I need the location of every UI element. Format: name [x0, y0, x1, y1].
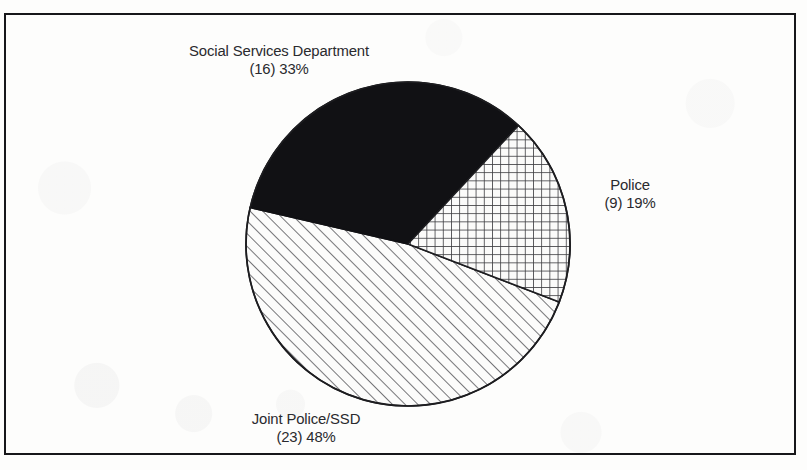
- pie-chart-figure: Social Services Department (16) 33% Poli…: [0, 0, 807, 470]
- pie-label-social-services-value: (16) 33%: [168, 60, 391, 78]
- pie-label-police: Police (9) 19%: [569, 176, 692, 212]
- pie-label-police-value: (9) 19%: [569, 194, 692, 212]
- pie-label-social-services: Social Services Department (16) 33%: [168, 42, 391, 78]
- pie-label-social-services-name: Social Services Department: [168, 42, 391, 60]
- pie-chart-canvas: [0, 0, 807, 470]
- pie-label-joint-police-ssd-name: Joint Police/SSD: [201, 410, 410, 428]
- pie-label-joint-police-ssd: Joint Police/SSD (23) 48%: [201, 410, 410, 446]
- pie-label-police-name: Police: [569, 176, 692, 194]
- pie-label-joint-police-ssd-value: (23) 48%: [201, 428, 410, 446]
